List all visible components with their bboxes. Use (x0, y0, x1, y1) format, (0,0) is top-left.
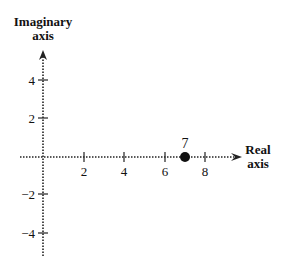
x-tick-label: 2 (81, 164, 88, 179)
y-tick-label: −2 (21, 187, 35, 202)
x-tick-label: 8 (202, 164, 209, 179)
real-axis-arrow-icon (231, 153, 242, 161)
x-tick-labels: 2 4 6 8 (81, 164, 209, 179)
x-tick-label: 6 (162, 164, 169, 179)
real-axis-label-line2: axis (247, 156, 269, 171)
y-tick-label: 2 (29, 111, 36, 126)
point-marker (180, 152, 190, 162)
imaginary-axis-label-line2: axis (32, 28, 54, 43)
y-tick-label: 4 (29, 73, 36, 88)
real-axis-label-line1: Real (245, 142, 271, 157)
point-label: 7 (182, 136, 189, 151)
y-tick-label: −4 (21, 226, 35, 241)
imaginary-axis-label-line1: Imaginary (14, 14, 73, 29)
x-tick-label: 4 (121, 164, 128, 179)
complex-plane-diagram: 2 4 6 8 4 2 −2 −4 7 Imaginary axis Real … (0, 0, 286, 263)
imaginary-axis-arrow-icon (39, 50, 47, 60)
